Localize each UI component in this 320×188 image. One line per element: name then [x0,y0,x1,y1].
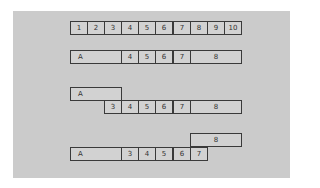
block-row3-6: 6 [155,100,173,114]
block-row3-3: 3 [104,100,122,114]
block-row4-3: 3 [121,147,139,161]
block-row1-9: 9 [207,21,225,35]
block-row4-6: 6 [173,147,191,161]
block-row1-5: 5 [138,21,156,35]
block-row4-a: A [70,147,122,161]
block-row1-7: 7 [173,21,191,35]
block-row3-a: A [70,87,122,101]
block-row1-2: 2 [87,21,105,35]
block-row1-10: 10 [224,21,242,35]
block-row4-4: 4 [138,147,156,161]
block-row2-6: 6 [155,50,173,64]
block-row1-8: 8 [190,21,208,35]
block-row4-7: 7 [190,147,208,161]
block-row4-5: 5 [155,147,173,161]
block-row2-5: 5 [138,50,156,64]
block-row4-8: 8 [190,133,242,147]
block-row1-4: 4 [121,21,139,35]
block-row1-6: 6 [155,21,173,35]
block-row3-5: 5 [138,100,156,114]
block-row3-8: 8 [190,100,242,114]
block-row3-7: 7 [173,100,191,114]
block-row1-3: 3 [104,21,122,35]
block-row3-4: 4 [121,100,139,114]
block-row2-7: 7 [173,50,191,64]
block-row2-4: 4 [121,50,139,64]
block-row2-a: A [70,50,122,64]
block-row2-8: 8 [190,50,242,64]
block-row1-1: 1 [70,21,88,35]
